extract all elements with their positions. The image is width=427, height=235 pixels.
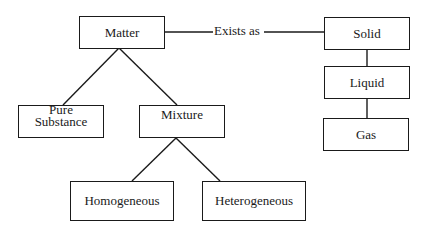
node-heterogeneous: Heterogeneous xyxy=(202,181,306,221)
node-homogeneous-label: Homogeneous xyxy=(84,195,159,207)
node-gas-label: Gas xyxy=(356,129,376,141)
node-solid-label: Solid xyxy=(353,28,380,40)
node-matter-label: Matter xyxy=(105,27,140,39)
node-liquid-label: Liquid xyxy=(350,77,385,89)
node-liquid: Liquid xyxy=(324,66,410,99)
node-heterogeneous-label: Heterogeneous xyxy=(215,195,293,207)
edge-label-exists-as: Exists as xyxy=(213,24,261,38)
edge-mixture-heterogeneous xyxy=(176,138,220,181)
node-mixture: Mixture xyxy=(139,105,225,138)
matter-classification-diagram: Matter Exists as Solid Liquid Gas Pure S… xyxy=(0,0,427,235)
edge-mixture-homogeneous xyxy=(132,138,176,181)
node-mixture-label: Mixture xyxy=(161,109,203,121)
node-matter: Matter xyxy=(79,16,165,49)
edge-matter-mixture xyxy=(119,48,177,105)
node-pure-substance: Pure Substance xyxy=(18,105,104,138)
node-homogeneous: Homogeneous xyxy=(70,181,174,221)
node-pure-substance-line2: Substance xyxy=(35,116,88,128)
edge-matter-pure-substance xyxy=(63,48,119,105)
node-solid: Solid xyxy=(324,17,410,50)
node-gas: Gas xyxy=(323,118,409,151)
